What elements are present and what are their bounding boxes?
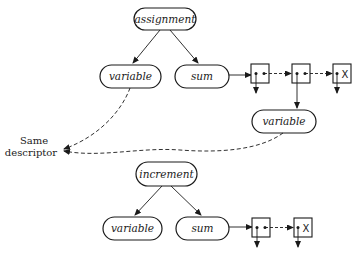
variable-node-lower: variable: [103, 217, 162, 240]
edge-increment-variable: [135, 186, 162, 215]
list-node-box4: [252, 218, 270, 247]
list-node-box5: X: [294, 218, 312, 247]
edge-assignment-variable: [133, 30, 160, 63]
same-descriptor-line2: descriptor: [5, 147, 57, 158]
variable-label-list: variable: [262, 115, 305, 127]
variable-label-lower: variable: [111, 222, 154, 234]
list-node-box2: [292, 64, 310, 108]
list-node-box3: X: [333, 64, 351, 93]
assignment-label: assignment: [134, 13, 196, 25]
terminal-x-lower: X: [303, 223, 310, 234]
sum-node-lower: sum: [176, 217, 229, 240]
increment-node: increment: [136, 162, 197, 186]
edge-assignment-sum: [170, 30, 198, 63]
sum-label-lower: sum: [191, 222, 213, 234]
increment-label: increment: [139, 168, 194, 180]
sum-label-upper: sum: [191, 70, 213, 82]
same-descriptor-line1: Same: [20, 135, 48, 146]
same-descriptor-label: Same descriptor: [5, 135, 57, 158]
dashed-link-list-variable: [64, 133, 283, 153]
assignment-node: assignment: [134, 8, 196, 30]
edge-increment-sum: [171, 186, 201, 215]
terminal-x-upper: X: [342, 69, 349, 80]
variable-label-upper: variable: [109, 70, 152, 82]
variable-node-list: variable: [252, 110, 316, 133]
syntax-tree-diagram: assignment variable sum X variable: [0, 0, 357, 255]
sum-node-upper: sum: [175, 65, 229, 88]
variable-node-upper: variable: [100, 65, 161, 88]
list-node-box1: [251, 64, 269, 93]
dashed-link-upper-variable: [64, 88, 130, 149]
